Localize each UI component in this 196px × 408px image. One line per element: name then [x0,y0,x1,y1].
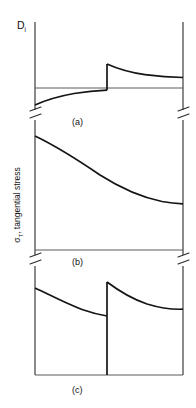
panel-b-right-break [178,253,189,264]
panel-b-curve [35,136,183,204]
panel-c-left-curve [35,288,107,316]
panel-a-caption: (a) [72,118,83,127]
inner-diameter-label: Di [17,20,26,31]
panel-c-right-curve [107,282,183,309]
panel-b-caption: (b) [72,258,83,267]
figure-root: Di σT, tangential stress (a) (b) (c) [0,0,196,408]
panel-a-left-break [30,107,41,118]
panel-b-left-break [30,253,41,264]
y-axis-label: σT, tangential stress [12,155,22,255]
panel-a-right-break [178,107,189,118]
panel-a-right-curve [107,64,183,78]
panel-c-caption: (c) [72,386,83,395]
stress-profile-figure [0,0,196,408]
panel-a-left-curve [35,90,107,105]
